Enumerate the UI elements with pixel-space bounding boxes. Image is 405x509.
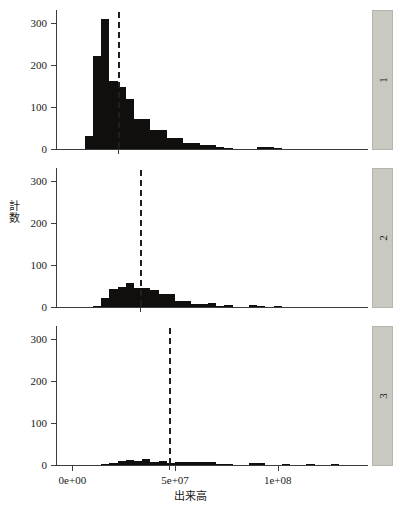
x-axis-label: 出来高 bbox=[0, 487, 380, 503]
x-axis-line bbox=[56, 149, 368, 150]
plot-area bbox=[56, 10, 368, 149]
histogram-bar bbox=[85, 136, 93, 149]
x-axis-line bbox=[56, 465, 368, 466]
histogram-bar bbox=[142, 288, 150, 307]
y-tick-label-0: 0 bbox=[1, 144, 47, 155]
histogram-figure: 計 数 出来高 010020030001002003000100200300 1… bbox=[0, 0, 405, 509]
x-tick-label-1e+08: 1e+08 bbox=[248, 475, 308, 486]
x-tick-label-5e+07: 5e+07 bbox=[145, 475, 205, 486]
histogram-panel-2: 0100200300 bbox=[56, 168, 368, 307]
reference-line bbox=[169, 328, 171, 464]
panel-strip-1: 1 bbox=[372, 10, 393, 150]
histogram-bar bbox=[167, 294, 175, 307]
histogram-bar bbox=[134, 119, 142, 149]
x-tick-label-0e+00: 0e+00 bbox=[42, 475, 102, 486]
y-tick-label-0: 0 bbox=[1, 460, 47, 471]
histogram-bar bbox=[159, 130, 167, 149]
histogram-bar bbox=[150, 130, 158, 149]
y-tick-label-100: 100 bbox=[1, 102, 47, 113]
y-tick-label-100: 100 bbox=[1, 418, 47, 429]
x-tick-5e+07 bbox=[175, 466, 176, 471]
y-tick-label-200: 200 bbox=[1, 376, 47, 387]
y-tick-label-0: 0 bbox=[1, 302, 47, 313]
histogram-bar bbox=[93, 56, 101, 150]
histogram-bar bbox=[175, 138, 183, 149]
y-tick-label-300: 300 bbox=[1, 334, 47, 345]
y-tick-label-200: 200 bbox=[1, 218, 47, 229]
y-tick-label-300: 300 bbox=[1, 176, 47, 187]
x-reference-tick bbox=[118, 149, 119, 154]
panel-strip-label: 1 bbox=[377, 77, 389, 83]
x-tick-0e+00 bbox=[72, 466, 73, 471]
panel-strip-label: 3 bbox=[377, 393, 389, 399]
histogram-bar bbox=[126, 283, 134, 307]
histogram-bar bbox=[109, 289, 117, 307]
panel-strip-2: 2 bbox=[372, 168, 393, 308]
x-tick-1e+08 bbox=[278, 466, 279, 471]
y-axis-label-char-1: 計 bbox=[6, 200, 22, 212]
histogram-bar bbox=[101, 298, 109, 307]
histogram-bar bbox=[118, 287, 126, 307]
histogram-bar bbox=[159, 294, 167, 307]
histogram-bar bbox=[167, 138, 175, 149]
panel-strip-label: 2 bbox=[377, 235, 389, 241]
histogram-panel-1: 0100200300 bbox=[56, 10, 368, 149]
x-axis-line bbox=[56, 307, 368, 308]
y-tick-label-200: 200 bbox=[1, 60, 47, 71]
plot-area bbox=[56, 168, 368, 307]
histogram-bar bbox=[126, 99, 134, 149]
histogram-bar bbox=[150, 290, 158, 307]
histogram-bar bbox=[109, 81, 117, 149]
x-reference-tick bbox=[169, 465, 170, 470]
histogram-panel-3: 0100200300 bbox=[56, 326, 368, 465]
y-tick-label-300: 300 bbox=[1, 18, 47, 29]
plot-area bbox=[56, 326, 368, 465]
y-tick-label-100: 100 bbox=[1, 260, 47, 271]
reference-line bbox=[140, 170, 142, 306]
histogram-bar bbox=[101, 19, 109, 149]
panel-strip-3: 3 bbox=[372, 326, 393, 466]
x-reference-tick bbox=[140, 307, 141, 312]
reference-line bbox=[118, 12, 120, 148]
figure-caption bbox=[18, 0, 348, 7]
histogram-bar bbox=[142, 119, 150, 149]
